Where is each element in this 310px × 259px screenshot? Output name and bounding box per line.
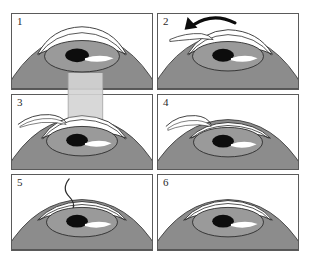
panel-1-illustration [12, 14, 152, 89]
panel-number-2: 2 [163, 15, 169, 27]
panel-laser-ablation: 3 [11, 94, 153, 171]
panel-3-clip [12, 95, 152, 170]
panel-number-3: 3 [17, 96, 23, 108]
iris-5 [47, 208, 118, 237]
panel-number-1: 1 [17, 15, 23, 27]
panel-1-clip [12, 14, 152, 89]
rotation-arrow-2 [185, 17, 235, 30]
panel-4-illustration [158, 95, 298, 170]
iris-6 [193, 208, 264, 237]
iris-1 [45, 41, 120, 72]
panel-6-illustration [158, 175, 298, 250]
panel-flap-repositioned: 5 [11, 174, 153, 251]
panel-intact-eye: 1 [11, 13, 153, 90]
panel-healed-eye: 6 [157, 174, 299, 251]
iris-4 [193, 127, 262, 156]
panel-grid: 1 [11, 13, 299, 251]
panel-flap-lifted: 2 [157, 13, 299, 90]
panel-4-clip [158, 95, 298, 170]
panel-5-illustration [12, 175, 152, 250]
panel-6-clip [158, 175, 298, 250]
panel-number-5: 5 [17, 176, 23, 188]
panel-2-clip [158, 14, 298, 89]
panel-5-clip [12, 175, 152, 250]
iris-3 [47, 126, 118, 155]
panel-2-illustration [158, 14, 298, 89]
iris-2 [193, 42, 264, 71]
panel-3-illustration [12, 95, 152, 170]
panel-number-6: 6 [163, 176, 169, 188]
panel-reshaped-cornea: 4 [157, 94, 299, 171]
lasik-procedure-figure: 1 [0, 0, 310, 259]
panel-number-4: 4 [163, 96, 169, 108]
